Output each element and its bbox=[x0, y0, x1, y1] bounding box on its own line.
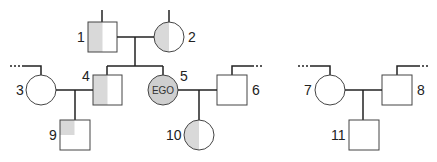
male-square-6 bbox=[217, 75, 247, 105]
label-10: 10 bbox=[166, 127, 182, 143]
label-9: 9 bbox=[49, 127, 57, 143]
ancestry-stem-8 bbox=[397, 66, 418, 75]
female-circle-7 bbox=[315, 75, 345, 105]
person-1: 1 bbox=[77, 10, 117, 52]
ego-text: EGO bbox=[152, 85, 174, 96]
person-6: 6 bbox=[217, 66, 264, 105]
person-10: 10 bbox=[166, 120, 214, 150]
label-2: 2 bbox=[188, 29, 196, 45]
label-1: 1 bbox=[77, 29, 85, 45]
person-5-ego: EGO 5 bbox=[148, 68, 188, 105]
person-3: 3 bbox=[10, 66, 56, 105]
shade-left-half bbox=[184, 120, 199, 150]
female-circle-3 bbox=[26, 75, 56, 105]
label-5: 5 bbox=[180, 68, 188, 84]
label-11: 11 bbox=[331, 127, 346, 143]
person-2: 2 bbox=[154, 10, 196, 52]
shade-top-left-quarter bbox=[60, 120, 75, 135]
shade-left-half bbox=[88, 22, 103, 52]
person-8: 8 bbox=[382, 66, 430, 105]
ancestry-stem-3 bbox=[22, 66, 41, 75]
ancestry-stem-6 bbox=[232, 66, 252, 75]
label-4: 4 bbox=[82, 68, 90, 84]
label-7: 7 bbox=[304, 82, 312, 98]
ancestry-stem-7 bbox=[310, 66, 330, 75]
male-square-8 bbox=[382, 75, 412, 105]
male-square-11 bbox=[349, 120, 379, 150]
person-11: 11 bbox=[331, 120, 379, 150]
label-8: 8 bbox=[417, 82, 425, 98]
person-4: 4 bbox=[82, 68, 122, 105]
shade-left-half bbox=[93, 75, 108, 105]
person-9: 9 bbox=[49, 120, 90, 150]
label-3: 3 bbox=[16, 82, 24, 98]
person-7: 7 bbox=[298, 66, 345, 105]
label-6: 6 bbox=[252, 82, 260, 98]
shade-left-half bbox=[154, 22, 169, 52]
genogram: 1 2 3 4 9 EGO 5 6 bbox=[0, 0, 437, 162]
